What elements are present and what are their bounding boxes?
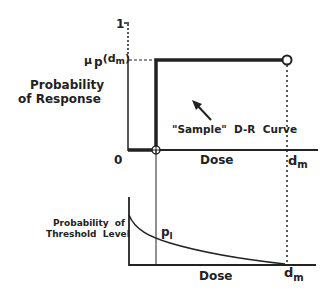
dose-response-diagram: 1 μp(dm) Probability of Response 0 Dose … [0, 0, 335, 299]
pl-label: pl [161, 225, 173, 241]
upper-x-axis-label: Dose [200, 153, 234, 167]
x-origin-label: 0 [114, 153, 122, 167]
lower-y-label-line1: Probability of [53, 218, 125, 228]
upper-dm-label: dm [288, 153, 308, 170]
upper-y-label-line1: Probability [30, 78, 104, 92]
y-tick-one-label: 1 [116, 17, 124, 31]
y-tick-mu-label: μp(dm) [84, 52, 130, 69]
sample-dr-curve [128, 60, 287, 150]
upper-y-label-line2: of Response [18, 92, 101, 106]
lower-x-axis-label: Dose [199, 269, 233, 283]
lower-dm-label: dm [284, 265, 304, 283]
threshold-density-curve [129, 215, 285, 264]
lower-y-label-line2: Threshold Level [46, 229, 130, 239]
sample-dr-curve-annotation: "Sample" D-R Curve [172, 123, 297, 135]
dm-end-marker [283, 56, 292, 65]
